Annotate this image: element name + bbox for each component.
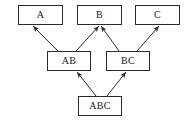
node-label-abc: ABC — [89, 101, 110, 111]
node-box-bc[interactable]: BC — [106, 51, 150, 71]
node-label-b: B — [96, 10, 103, 20]
node-box-abc[interactable]: ABC — [78, 96, 122, 116]
node-box-a[interactable]: A — [18, 5, 63, 25]
node-label-a: A — [37, 10, 45, 20]
edge-bc-to-b — [101, 26, 119, 51]
edge-abc-to-ab — [77, 72, 96, 96]
node-box-b[interactable]: B — [77, 5, 122, 25]
node-box-c[interactable]: C — [135, 5, 180, 25]
edge-abc-to-bc — [107, 72, 126, 96]
diagram-canvas: A B C AB BC ABC — [0, 0, 194, 126]
node-label-bc: BC — [121, 56, 135, 66]
node-box-ab[interactable]: AB — [47, 51, 91, 71]
edge-ab-to-a — [33, 26, 58, 51]
node-label-c: C — [154, 10, 161, 20]
edge-bc-to-c — [137, 26, 159, 51]
node-label-ab: AB — [62, 56, 77, 66]
edge-ab-to-b — [76, 26, 99, 51]
